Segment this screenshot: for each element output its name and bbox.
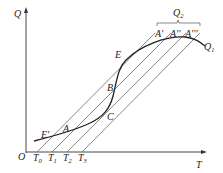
point-A-triple-prime: A''' xyxy=(184,28,198,39)
tick-T2: T2 xyxy=(63,152,73,164)
y-axis-arrow-icon xyxy=(24,7,28,13)
origin-label: O xyxy=(18,151,25,162)
lines-label-Q2: Q2 xyxy=(173,7,184,19)
x-tick-labels: T0 T1 T2 T3 xyxy=(33,152,88,164)
tick-T3: T3 xyxy=(78,152,88,164)
heat-balance-diagram: Q T O T0 T1 T2 T3 E' A C B E A' A'' A'''… xyxy=(0,0,223,173)
point-A-prime: A' xyxy=(154,28,164,39)
x-axis-label: T xyxy=(196,159,203,170)
curve-label-Q1: Q1 xyxy=(204,41,214,53)
point-E: E xyxy=(114,49,121,60)
tick-T0: T0 xyxy=(33,152,43,164)
tick-T1: T1 xyxy=(48,152,57,164)
point-B: B xyxy=(107,82,113,93)
line-T3 xyxy=(82,33,200,152)
point-E-prime: E' xyxy=(40,129,50,140)
y-axis-label: Q xyxy=(14,8,22,19)
point-C: C xyxy=(107,111,114,122)
point-A: A xyxy=(62,123,70,134)
line-T2 xyxy=(67,33,186,152)
x-axis-arrow-icon xyxy=(201,150,207,154)
q2-brace xyxy=(157,20,200,26)
point-A-double-prime: A'' xyxy=(169,28,181,39)
